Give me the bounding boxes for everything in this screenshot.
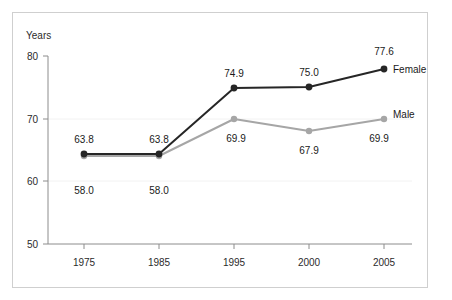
data-point-male-2000 (306, 128, 312, 134)
x-tick-label-1975: 1975 (73, 257, 96, 268)
value-label-female-1985: 63.8 (149, 134, 169, 145)
data-point-female-1995 (231, 85, 238, 92)
x-axis-ticks (84, 244, 384, 249)
y-axis-ticks (43, 56, 48, 244)
x-tick-label-2005: 2005 (373, 257, 396, 268)
data-point-female-1975 (81, 151, 88, 158)
data-point-male-1995 (231, 116, 237, 122)
data-point-female-2000 (306, 84, 313, 91)
value-label-female-1995: 74.9 (224, 68, 244, 79)
value-label-male-2005: 69.9 (369, 133, 389, 144)
value-label-female-2000: 75.0 (299, 67, 319, 78)
y-tick-label-50: 50 (27, 239, 39, 250)
x-tick-label-1995: 1995 (223, 257, 246, 268)
y-tick-label-60: 60 (27, 176, 39, 187)
value-label-male-1975: 58.0 (74, 185, 94, 196)
legend-label-male: Male (393, 109, 415, 120)
data-point-male-2005 (381, 116, 387, 122)
value-label-male-2000: 67.9 (299, 145, 319, 156)
x-tick-label-2000: 2000 (298, 257, 321, 268)
y-tick-label-70: 70 (27, 114, 39, 125)
value-label-female-1975: 63.8 (74, 134, 94, 145)
data-point-female-2005 (381, 66, 388, 73)
value-label-female-2005: 77.6 (374, 46, 394, 57)
gridlines (48, 119, 412, 181)
legend-label-female: Female (393, 64, 427, 75)
value-label-male-1995: 69.9 (226, 133, 246, 144)
x-tick-label-1985: 1985 (148, 257, 171, 268)
value-label-male-1985: 58.0 (149, 185, 169, 196)
line-chart: Years 80 70 60 50 1975 1985 1995 2000 20… (0, 0, 452, 300)
data-point-female-1985 (156, 151, 163, 158)
y-tick-label-80: 80 (27, 51, 39, 62)
chart-figure: Years 80 70 60 50 1975 1985 1995 2000 20… (0, 0, 452, 300)
y-axis-title: Years (26, 30, 51, 41)
